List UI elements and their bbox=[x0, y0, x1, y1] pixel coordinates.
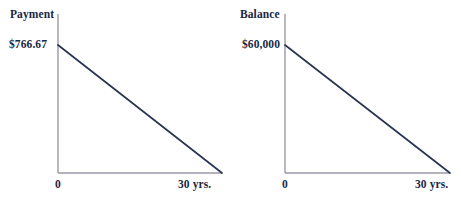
payment-axis-title: Payment bbox=[10, 9, 54, 21]
chart-panel-payment: Payment $766.67 0 30 yrs. bbox=[0, 0, 231, 205]
balance-origin-label: 0 bbox=[282, 179, 288, 191]
chart-panel-balance: Balance $60,000 0 30 yrs. bbox=[230, 0, 461, 205]
payment-y-intercept-label: $766.67 bbox=[9, 39, 47, 51]
balance-y-intercept-label: $60,000 bbox=[242, 39, 280, 51]
payment-chart-canvas bbox=[0, 0, 231, 205]
two-panel-line-chart-figure: Payment $766.67 0 30 yrs. Balance $60,00… bbox=[0, 0, 461, 205]
payment-origin-label: 0 bbox=[55, 179, 61, 191]
payment-data-line bbox=[58, 45, 222, 173]
balance-x-end-label: 30 yrs. bbox=[415, 179, 448, 191]
balance-data-line bbox=[285, 45, 450, 173]
payment-x-end-label: 30 yrs. bbox=[178, 179, 211, 191]
balance-axis-title: Balance bbox=[240, 9, 280, 21]
balance-chart-canvas bbox=[230, 0, 461, 205]
